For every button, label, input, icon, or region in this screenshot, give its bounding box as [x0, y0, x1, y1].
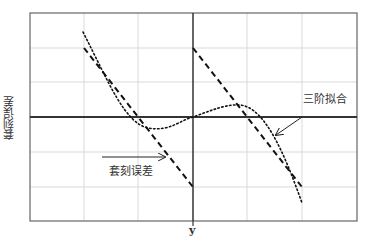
- arrow-cubic-fit: [276, 117, 302, 135]
- annotation-cubic-fit: 三阶拟合: [303, 90, 347, 106]
- chart-canvas: [0, 0, 370, 247]
- x-axis-label: y: [189, 224, 195, 237]
- annotation-overlay-error: 套刻误差: [109, 162, 153, 178]
- y-axis-label: 套刻误差: [4, 96, 18, 140]
